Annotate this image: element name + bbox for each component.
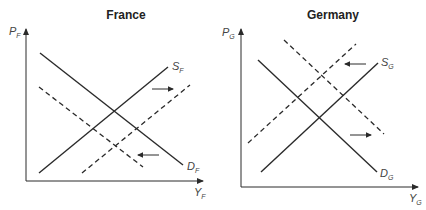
france-title: France bbox=[76, 8, 176, 22]
france-demand-label: DF bbox=[187, 160, 199, 174]
france-y-axis-label: PF bbox=[9, 25, 21, 39]
germany-supply-label: SG bbox=[381, 56, 394, 70]
diagrams-canvas bbox=[0, 0, 426, 210]
germany-demand-curve bbox=[258, 60, 377, 172]
france-diagram bbox=[26, 29, 203, 181]
germany-x-axis-label: YG bbox=[409, 192, 422, 206]
france-demand-curve-shifted bbox=[39, 87, 143, 167]
france-supply-curve bbox=[39, 67, 168, 173]
germany-title: Germany bbox=[283, 8, 383, 22]
germany-supply-curve-shifted bbox=[248, 44, 356, 143]
germany-diagram bbox=[241, 29, 418, 187]
germany-y-axis-label: PG bbox=[222, 26, 235, 40]
france-supply-label: SF bbox=[172, 60, 184, 74]
germany-demand-curve-shifted bbox=[284, 40, 384, 134]
germany-demand-label: DG bbox=[380, 167, 393, 181]
france-x-axis-label: YF bbox=[194, 186, 206, 200]
